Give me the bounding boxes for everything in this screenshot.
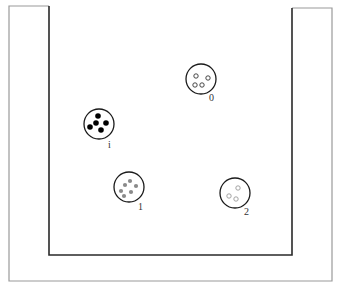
circle-outline — [186, 64, 216, 94]
circle-label: 0 — [209, 92, 214, 103]
outer-frame — [9, 6, 332, 281]
solid-dot — [98, 127, 104, 133]
diagram-canvas: 0i12 — [0, 0, 339, 287]
hollow-dot — [206, 76, 210, 80]
solid-dot — [87, 124, 93, 130]
circle-outline — [114, 172, 144, 202]
circle-label: 2 — [244, 206, 249, 217]
solid-dot — [128, 179, 132, 183]
solid-dot — [122, 194, 126, 198]
circle-0: 0 — [186, 64, 216, 103]
solid-dot — [103, 120, 109, 126]
circle-group: 0i12 — [84, 64, 250, 217]
circle-i: i — [84, 109, 114, 150]
hollow-dot — [194, 74, 198, 78]
hollow-dot — [193, 83, 197, 87]
circle-label: i — [108, 139, 111, 150]
hollow-dot — [236, 186, 240, 190]
solid-dot — [119, 189, 123, 193]
solid-dot — [123, 183, 127, 187]
circle-label: 1 — [138, 201, 143, 212]
circle-1: 1 — [114, 172, 144, 212]
solid-dot — [134, 184, 138, 188]
hollow-dot — [227, 194, 231, 198]
solid-dot — [95, 113, 101, 119]
hollow-dot — [200, 83, 204, 87]
circle-outline — [220, 178, 250, 208]
circle-2: 2 — [220, 178, 250, 217]
solid-dot — [129, 190, 133, 194]
hollow-dot — [234, 197, 238, 201]
solid-dot — [93, 120, 99, 126]
diagram-svg: 0i12 — [0, 0, 339, 287]
